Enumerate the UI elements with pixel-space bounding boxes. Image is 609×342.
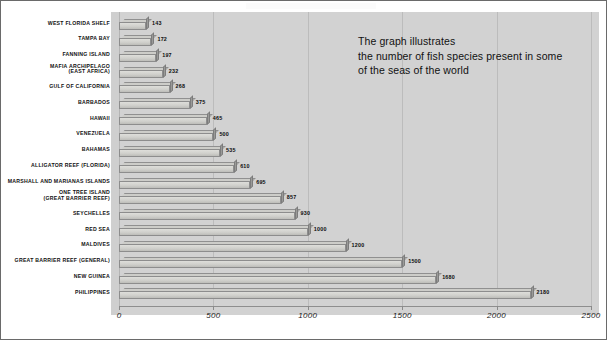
bar-value-label: 143 xyxy=(152,20,162,26)
tick-mark-2000 xyxy=(497,306,498,310)
bar[interactable] xyxy=(119,35,151,46)
bar[interactable] xyxy=(119,178,250,189)
category-label: MALDIVES xyxy=(1,242,114,248)
category-label: WEST FLORIDA SHELF xyxy=(1,21,114,27)
bar-end-cap xyxy=(190,95,193,109)
bar-front-face xyxy=(119,260,402,268)
bar[interactable] xyxy=(119,162,234,173)
bar-end-cap xyxy=(163,64,166,78)
bar-row: VENEZUELA500 xyxy=(1,128,607,143)
bar-value-label: 465 xyxy=(213,115,223,121)
category-label: MAFIA ARCHIPELAGO (EAST AFRICA) xyxy=(1,64,114,75)
bar-front-face xyxy=(119,181,250,189)
bar[interactable] xyxy=(119,67,163,78)
bar-row: GREAT BARRIER REEF (GENERAL)1500 xyxy=(1,255,607,270)
bar-row: HAWAII465 xyxy=(1,112,607,127)
bar-end-cap xyxy=(281,190,284,204)
bar-row: NEW GUINEA1680 xyxy=(1,271,607,286)
bar-row: PHILIPPINES2180 xyxy=(1,286,607,301)
bar-row: ALLIGATOR REEF (FLORIDA)610 xyxy=(1,160,607,175)
category-label: GREAT BARRIER REEF (GENERAL) xyxy=(1,258,114,264)
bar-value-label: 1000 xyxy=(314,226,327,232)
bar[interactable] xyxy=(119,130,213,141)
bar[interactable] xyxy=(119,19,146,30)
bar-front-face xyxy=(119,212,295,220)
tick-mark-1500 xyxy=(402,306,403,310)
bar-value-label: 930 xyxy=(301,210,311,216)
bar-end-cap xyxy=(146,16,149,30)
bar[interactable] xyxy=(119,225,308,236)
bar-end-cap xyxy=(213,127,216,141)
bar-front-face xyxy=(119,291,531,299)
bar-end-cap xyxy=(151,32,154,46)
bar[interactable] xyxy=(119,273,436,284)
bar-end-cap xyxy=(234,159,237,173)
bar[interactable] xyxy=(119,146,220,157)
bar-front-face xyxy=(119,101,190,109)
bar-end-cap xyxy=(308,222,311,236)
bar-row: MALDIVES1200 xyxy=(1,239,607,254)
tick-label-2500: 2500 xyxy=(582,311,601,320)
bar-front-face xyxy=(119,85,170,93)
bar-end-cap xyxy=(346,238,349,252)
chart-annotation: The graph illustrates the number of fish… xyxy=(358,34,562,78)
bar-end-cap xyxy=(295,206,298,220)
bar-front-face xyxy=(119,165,234,173)
bar[interactable] xyxy=(119,288,531,299)
bar-value-label: 375 xyxy=(196,99,206,105)
tick-label-1500: 1500 xyxy=(393,311,412,320)
bar-value-label: 500 xyxy=(219,131,229,137)
bar-value-label: 172 xyxy=(157,36,167,42)
x-axis-line xyxy=(119,306,591,307)
bar[interactable] xyxy=(119,209,295,220)
bar-row: BAHAMAS535 xyxy=(1,144,607,159)
tick-mark-2500 xyxy=(591,306,592,310)
bar-front-face xyxy=(119,196,281,204)
tick-label-500: 500 xyxy=(206,311,220,320)
bar-front-face xyxy=(119,70,163,78)
bar-row: GULF OF CALIFORNIA268 xyxy=(1,80,607,95)
category-label: RED SEA xyxy=(1,227,114,233)
tick-mark-0 xyxy=(119,306,120,310)
category-label: BARBADOS xyxy=(1,100,114,106)
bar-end-cap xyxy=(170,80,173,94)
bar[interactable] xyxy=(119,257,402,268)
category-label: PHILIPPINES xyxy=(1,290,114,296)
bar-row: WEST FLORIDA SHELF143 xyxy=(1,17,607,32)
bar[interactable] xyxy=(119,98,190,109)
bar-front-face xyxy=(119,22,146,30)
bar-front-face xyxy=(119,133,213,141)
category-label: GULF OF CALIFORNIA xyxy=(1,84,114,90)
bar-end-cap xyxy=(531,286,534,300)
bar[interactable] xyxy=(119,51,156,62)
bar-front-face xyxy=(119,244,346,252)
bar-value-label: 1200 xyxy=(352,242,365,248)
category-label: NEW GUINEA xyxy=(1,274,114,280)
tick-label-1000: 1000 xyxy=(298,311,317,320)
bar-end-cap xyxy=(220,143,223,157)
bar-row: SEYCHELLES930 xyxy=(1,207,607,222)
category-label: BAHAMAS xyxy=(1,147,114,153)
bar-front-face xyxy=(119,276,436,284)
bar-value-label: 197 xyxy=(162,52,172,58)
bar-front-face xyxy=(119,38,151,46)
top-artifact xyxy=(246,3,376,9)
bar-front-face xyxy=(119,149,220,157)
bar-front-face xyxy=(119,117,207,125)
bar-value-label: 1500 xyxy=(408,258,421,264)
tick-label-0: 0 xyxy=(117,311,122,320)
bar[interactable] xyxy=(119,82,170,93)
bar-value-label: 610 xyxy=(240,163,250,169)
category-label: MARSHALL AND MARIANAS ISLANDS xyxy=(1,179,114,185)
bar[interactable] xyxy=(119,114,207,125)
category-label: FANNING ISLAND xyxy=(1,52,114,58)
bar-row: MARSHALL AND MARIANAS ISLANDS695 xyxy=(1,176,607,191)
tick-mark-1000 xyxy=(308,306,309,310)
bar[interactable] xyxy=(119,241,346,252)
bar-end-cap xyxy=(402,254,405,268)
bar[interactable] xyxy=(119,193,281,204)
chart-frame: WEST FLORIDA SHELF143TAMPA BAY172FANNING… xyxy=(0,0,607,340)
category-label: VENEZUELA xyxy=(1,131,114,137)
category-label: SEYCHELLES xyxy=(1,211,114,217)
bar-value-label: 857 xyxy=(287,194,297,200)
